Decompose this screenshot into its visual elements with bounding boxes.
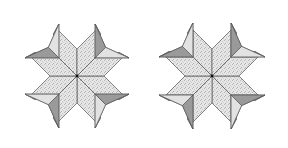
star-block-right [159, 23, 265, 129]
diagram-canvas [0, 0, 288, 148]
star-center-dot [211, 75, 214, 78]
star-block-left [25, 24, 129, 128]
star-blocks-diagram [0, 0, 288, 148]
star-center-dot [76, 75, 79, 78]
